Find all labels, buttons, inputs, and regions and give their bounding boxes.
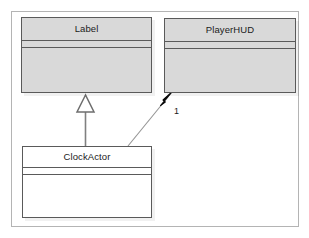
uml-class-clockactor[interactable]: ClockActor: [22, 146, 152, 218]
class-operations-clockactor: [23, 175, 151, 217]
uml-class-diagram: 1 Label PlayerHUD ClockActor: [0, 0, 309, 238]
class-name-label: Label: [22, 18, 151, 41]
class-operations-playerhud: [165, 49, 295, 92]
class-name-clockactor: ClockActor: [23, 147, 151, 168]
class-attributes-playerhud: [165, 42, 295, 49]
class-attributes-clockactor: [23, 168, 151, 175]
uml-class-playerhud[interactable]: PlayerHUD: [164, 18, 296, 93]
class-attributes-label: [22, 41, 151, 48]
multiplicity-label-playerhud: 1: [174, 107, 179, 116]
uml-class-label[interactable]: Label: [21, 17, 152, 93]
class-operations-label: [22, 48, 151, 92]
class-name-playerhud: PlayerHUD: [165, 19, 295, 42]
